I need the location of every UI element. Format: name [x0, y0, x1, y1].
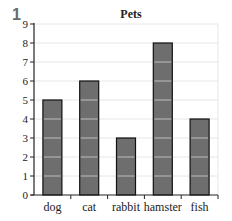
y-tick-label: 7	[23, 56, 29, 68]
x-tick-label: dog	[43, 200, 61, 214]
y-tick-label: 6	[23, 75, 29, 87]
x-tick-label: rabbit	[112, 200, 141, 214]
y-tick-label: 8	[23, 37, 29, 49]
x-tick-label: hamster	[144, 200, 182, 214]
x-axis-labels: dogcatrabbithamsterfish	[43, 200, 208, 214]
y-tick-label: 0	[23, 189, 29, 201]
y-tick-label: 5	[23, 94, 29, 106]
y-axis-ticks: 0123456789	[23, 18, 35, 201]
y-tick-label: 1	[23, 170, 29, 182]
bar-dog	[43, 100, 62, 195]
bar-rabbit	[117, 138, 136, 195]
x-tick-label: cat	[82, 200, 97, 214]
y-tick-label: 2	[23, 151, 29, 163]
y-tick-label: 3	[23, 132, 29, 144]
chart-title: Pets	[120, 7, 142, 21]
y-tick-label: 4	[23, 113, 29, 125]
y-tick-label: 9	[23, 18, 29, 30]
x-tick-label: fish	[191, 200, 209, 214]
bar-chart: Pets 0123456789 dogcatrabbithamsterfish	[0, 0, 232, 221]
